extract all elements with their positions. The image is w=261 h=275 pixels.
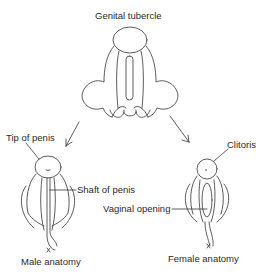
- arrow-to-male: [66, 122, 79, 146]
- male-anatomy-drawing: [21, 143, 76, 252]
- arrow-to-female: [170, 116, 189, 142]
- genital-tubercle-label: Genital tubercle: [95, 10, 162, 21]
- male-anatomy-label: Male anatomy: [21, 256, 81, 267]
- genital-tubercle-drawing: [82, 27, 178, 117]
- female-anatomy-drawing: [172, 149, 229, 248]
- shaft-of-penis-label: Shaft of penis: [77, 184, 135, 195]
- vaginal-opening-label: Vaginal opening: [103, 203, 170, 214]
- clitoris-label: Clitoris: [227, 139, 256, 150]
- female-anatomy-label: Female anatomy: [168, 253, 239, 264]
- tip-of-penis-label: Tip of penis: [6, 132, 55, 143]
